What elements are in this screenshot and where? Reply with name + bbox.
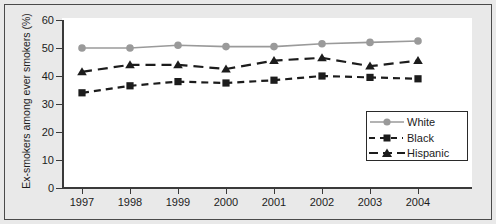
legend-item-white: White: [367, 114, 467, 130]
chart-figure: 0102030405060 19971998199920002001200220…: [0, 0, 496, 224]
y-tick-label: 60: [32, 15, 54, 26]
y-tick-label: 50: [32, 43, 54, 54]
legend-item-black: Black: [367, 130, 467, 146]
x-tick: [322, 189, 323, 194]
legend-swatch-white-icon: [367, 115, 407, 129]
y-tick: [56, 132, 62, 133]
y-tick: [56, 160, 62, 161]
x-tick: [226, 189, 227, 194]
legend-swatch-black-icon: [367, 131, 407, 145]
y-tick-label: 20: [32, 127, 54, 138]
y-tick: [56, 48, 62, 49]
legend-label-black: Black: [407, 133, 434, 144]
x-tick-label: 2004: [394, 197, 442, 208]
y-axis-line: [62, 20, 64, 189]
y-tick: [56, 104, 62, 105]
x-tick-label: 2000: [202, 197, 250, 208]
x-tick: [178, 189, 179, 194]
y-axis-label: Ex-smokers among ever smokers (%): [20, 11, 32, 191]
x-tick-label: 1999: [154, 197, 202, 208]
y-tick: [56, 188, 62, 189]
legend-swatch-hispanic-icon: [367, 146, 407, 160]
x-tick: [370, 189, 371, 194]
x-tick-label: 2002: [298, 197, 346, 208]
x-tick-label: 2001: [250, 197, 298, 208]
y-tick-label: 10: [32, 155, 54, 166]
x-tick-label: 1998: [106, 197, 154, 208]
plot-area: [62, 18, 472, 188]
legend-item-hispanic: Hispanic: [367, 145, 467, 161]
legend-label-hispanic: Hispanic: [407, 148, 449, 159]
x-tick: [82, 189, 83, 194]
y-tick-label: 30: [32, 99, 54, 110]
x-axis-line: [62, 187, 472, 189]
y-tick-label: 40: [32, 71, 54, 82]
y-tick: [56, 76, 62, 77]
y-tick-label: 0: [32, 183, 54, 194]
x-tick: [274, 189, 275, 194]
legend-label-white: White: [407, 117, 435, 128]
x-tick: [418, 189, 419, 194]
y-tick: [56, 20, 62, 21]
x-tick-label: 1997: [58, 197, 106, 208]
x-tick: [130, 189, 131, 194]
x-tick-label: 2003: [346, 197, 394, 208]
chart-legend: White Black Hispanic: [366, 111, 468, 161]
